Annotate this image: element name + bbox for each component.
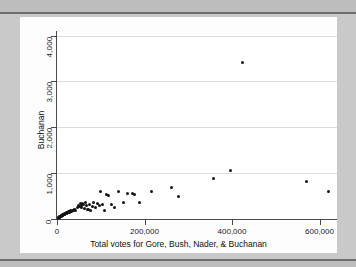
x-tick-200000	[145, 220, 146, 225]
data-point	[133, 193, 136, 196]
y-tick-label-2000: 2,000	[45, 128, 54, 149]
page-band-top	[0, 0, 356, 12]
x-axis-title: Total votes for Gore, Bush, Nader, & Buc…	[20, 239, 337, 249]
data-point	[150, 190, 153, 193]
data-point	[99, 190, 102, 193]
x-tick-600000	[320, 220, 321, 225]
x-tick-label-600000: 600,000	[305, 227, 334, 236]
data-point	[94, 206, 97, 209]
x-tick-400000	[232, 220, 233, 225]
data-point	[122, 201, 125, 204]
screenshot-root: Buchanan Total votes for Gore, Bush, Nad…	[0, 0, 356, 267]
page-band-bottom	[0, 261, 356, 267]
data-point	[327, 190, 330, 193]
x-tick-label-0: 0	[55, 227, 59, 236]
data-point	[229, 169, 232, 172]
y-tick-label-0: 0	[45, 220, 54, 225]
data-point	[305, 180, 308, 183]
gridline-y-4000	[57, 36, 337, 37]
x-tick-label-400000: 400,000	[218, 227, 247, 236]
data-point	[107, 194, 110, 197]
data-point	[126, 192, 129, 195]
gridline-y-3000	[57, 81, 337, 82]
x-tick-0	[57, 220, 58, 225]
x-axis-line	[56, 219, 337, 220]
data-point	[241, 61, 244, 64]
x-tick-label-200000: 200,000	[130, 227, 159, 236]
data-point	[89, 209, 92, 212]
data-point	[101, 203, 104, 206]
plot-area	[57, 31, 337, 219]
y-tick-label-1000: 1,000	[45, 174, 54, 195]
y-tick-label-3000: 3,000	[45, 82, 54, 103]
data-point	[92, 201, 95, 204]
data-point	[212, 177, 215, 180]
data-point	[113, 206, 116, 209]
data-point	[103, 209, 106, 212]
data-point	[117, 190, 120, 193]
gridline-y-2000	[57, 127, 337, 128]
graph-canvas: Buchanan Total votes for Gore, Bush, Nad…	[20, 17, 337, 253]
page-rule-top	[0, 12, 356, 14]
gridline-y-1000	[57, 173, 337, 174]
data-point	[170, 186, 173, 189]
data-point	[177, 195, 180, 198]
y-tick-label-4000: 4,000	[45, 36, 54, 57]
data-point	[138, 201, 141, 204]
